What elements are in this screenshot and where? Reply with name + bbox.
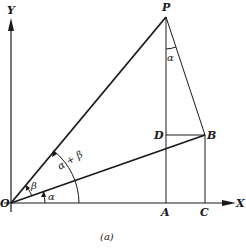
point-A-label: A	[160, 206, 170, 219]
x-axis-arrow-icon	[222, 200, 236, 206]
point-P-label: P	[161, 1, 171, 14]
angle-arc-alpha-P	[166, 47, 176, 49]
angle-alpha-O-label: α	[48, 191, 55, 202]
point-B-label: B	[206, 129, 216, 142]
angle-beta-O-label: β	[30, 180, 37, 191]
x-axis-label: X	[235, 197, 245, 210]
point-D-label: D	[153, 129, 164, 142]
figure-caption: (a)	[100, 231, 114, 242]
angle-alpha-P-label: α	[167, 52, 174, 63]
point-C-label: C	[200, 206, 209, 219]
geometry-diagram: Y X O P A C D B α β α α + β (a)	[0, 0, 246, 250]
angle-alpha-plus-beta-label: α + β	[56, 148, 85, 171]
y-axis-arrow-icon	[8, 18, 14, 31]
point-O-label: O	[0, 197, 10, 210]
y-axis-label: Y	[7, 4, 16, 17]
segment-PB	[166, 17, 205, 135]
